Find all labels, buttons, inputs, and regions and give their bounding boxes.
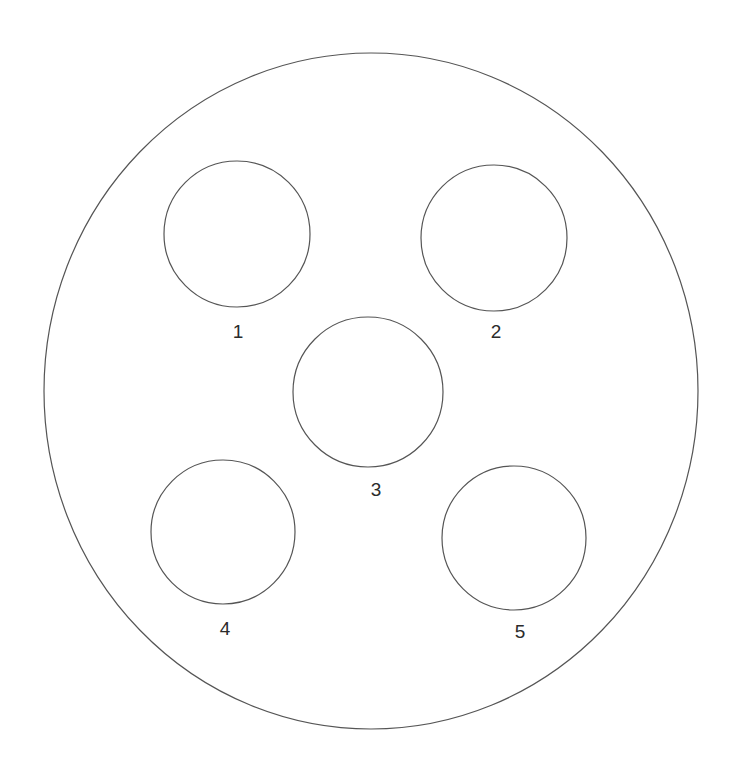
hole-5-label: 5 bbox=[515, 621, 526, 642]
hole-1-label: 1 bbox=[233, 321, 244, 342]
hole-2-circle bbox=[421, 165, 567, 311]
hole-3-circle bbox=[293, 317, 443, 467]
hole-4-circle bbox=[151, 460, 295, 604]
diagram-canvas: 1 2 3 4 5 bbox=[0, 0, 732, 775]
hole-5-circle bbox=[442, 466, 586, 610]
hole-1-circle bbox=[164, 161, 310, 307]
hole-4-label: 4 bbox=[220, 618, 231, 639]
hole-3-label: 3 bbox=[371, 479, 382, 500]
plate-diagram-svg: 1 2 3 4 5 bbox=[0, 0, 732, 775]
hole-2-label: 2 bbox=[491, 321, 502, 342]
